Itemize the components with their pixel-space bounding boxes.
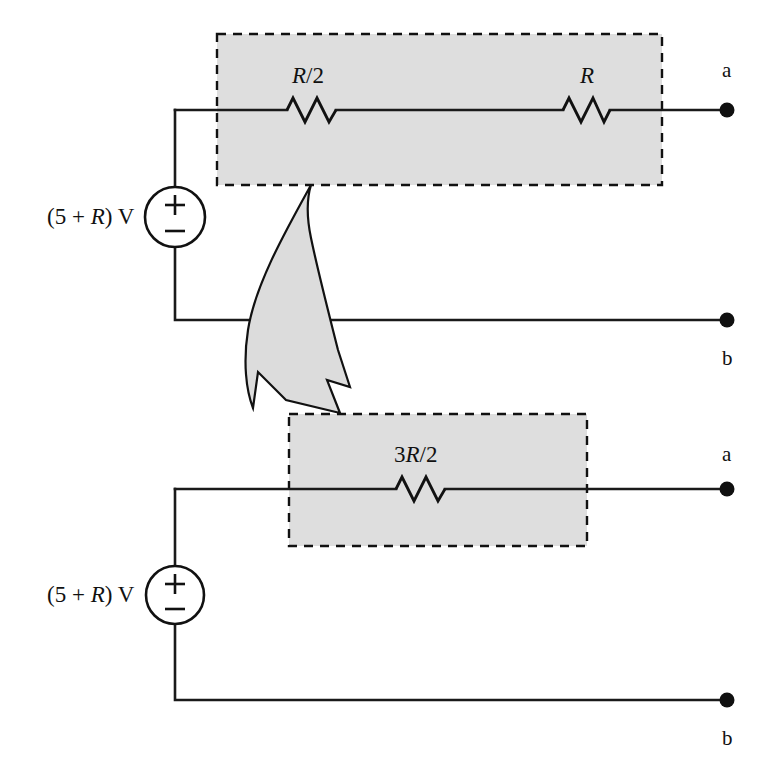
bottom-terminal-b-dot — [720, 693, 735, 708]
top-terminal-b-dot — [720, 313, 735, 328]
bottom-terminal-a-label: a — [722, 444, 731, 465]
top-resistor-1-label: R/2 — [292, 64, 324, 87]
bottom-source-label-prefix: (5 + — [47, 582, 91, 607]
top-terminal-a-label: a — [722, 60, 731, 81]
circuit-figure: (5 + R) V R/2 R a b (5 + R) V 3R/2 a b — [0, 0, 768, 774]
bottom-terminal-b-label: b — [722, 728, 733, 749]
top-resistor-1-label-den: /2 — [306, 63, 324, 88]
bottom-dashed-region — [289, 414, 587, 546]
top-source-label-suffix: ) V — [105, 204, 135, 229]
bottom-source-label: (5 + R) V — [47, 583, 134, 606]
top-source-label-var: R — [91, 204, 105, 229]
top-source-label-prefix: (5 + — [47, 204, 91, 229]
circuit-svg — [0, 0, 768, 774]
bottom-resistor-label: 3R/2 — [394, 443, 437, 466]
top-resistor-2-label: R — [580, 64, 594, 87]
top-terminal-a-dot — [720, 103, 735, 118]
top-terminal-b-label: b — [722, 348, 733, 369]
bottom-circuit-wire-lower — [175, 623, 725, 700]
bottom-terminal-a-dot — [720, 482, 735, 497]
bottom-resistor-label-den: /2 — [420, 442, 438, 467]
bottom-source-label-var: R — [91, 582, 105, 607]
bottom-resistor-label-var: R — [406, 442, 420, 467]
curved-transform-arrow — [246, 185, 350, 413]
bottom-resistor-label-coeff: 3 — [394, 442, 406, 467]
top-resistor-1-label-var: R — [292, 63, 306, 88]
top-source-label: (5 + R) V — [47, 205, 134, 228]
bottom-source-label-suffix: ) V — [105, 582, 135, 607]
